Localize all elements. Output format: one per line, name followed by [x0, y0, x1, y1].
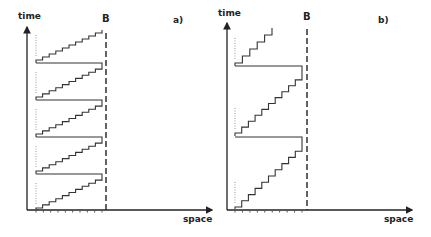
panel-label: a)	[173, 15, 183, 25]
staircase-trajectory	[235, 137, 302, 209]
boundary-label: B	[303, 11, 311, 22]
x-axis-label: space	[384, 214, 413, 224]
y-axis-label: time	[218, 8, 241, 18]
staircase-trajectory	[36, 63, 102, 100]
staircase-trajectory	[36, 100, 102, 137]
staircase-trajectory	[235, 28, 272, 66]
diagram-figure: time B a) space time B b) space	[0, 0, 431, 237]
x-axis-label: space	[183, 214, 212, 224]
staircase-trajectory	[36, 174, 102, 210]
panel-label: b)	[378, 15, 389, 25]
staircase-trajectory	[36, 30, 102, 63]
boundary-label: B	[102, 13, 110, 24]
space-time-diagram: time B a) space time B b) space	[0, 0, 431, 237]
staircase-trajectory	[36, 137, 102, 174]
y-axis-label: time	[18, 11, 41, 21]
panel-a: time B a) space	[18, 11, 212, 224]
panel-b: time B b) space	[218, 8, 413, 224]
staircase-trajectory	[235, 66, 302, 136]
